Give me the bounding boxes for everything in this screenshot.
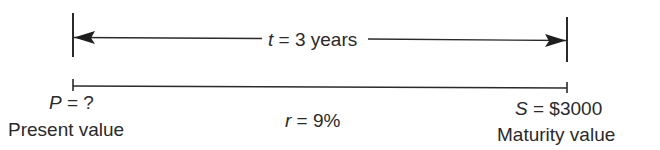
interest-rate-label: r = 9% bbox=[285, 111, 340, 130]
duration-line-left bbox=[74, 38, 262, 39]
maturity-value-equation: S = $3000 bbox=[515, 99, 602, 118]
rate-variable: r bbox=[285, 110, 291, 131]
timeline-diagram: t = 3 years P = ? Present value r = 9% S… bbox=[0, 0, 660, 150]
present-value-amount: ? bbox=[83, 92, 94, 113]
duration-line-right bbox=[368, 39, 566, 41]
maturity-value-amount: $3000 bbox=[549, 98, 602, 119]
maturity-value-variable: S bbox=[515, 98, 528, 119]
time-equals: = bbox=[279, 29, 290, 50]
maturity-value-caption: Maturity value bbox=[497, 125, 615, 144]
time-span-label: t = 3 years bbox=[265, 30, 360, 49]
time-value: 3 years bbox=[295, 29, 357, 50]
present-value-caption: Present value bbox=[8, 120, 124, 139]
rate-equals: = bbox=[297, 110, 308, 131]
present-value-equals: = bbox=[67, 92, 78, 113]
maturity-value-equals: = bbox=[533, 98, 544, 119]
present-value-variable: P bbox=[49, 92, 62, 113]
rate-value: 9% bbox=[313, 110, 340, 131]
time-variable: t bbox=[268, 29, 273, 50]
timeline-axis bbox=[73, 86, 567, 88]
present-value-equation: P = ? bbox=[49, 93, 94, 112]
